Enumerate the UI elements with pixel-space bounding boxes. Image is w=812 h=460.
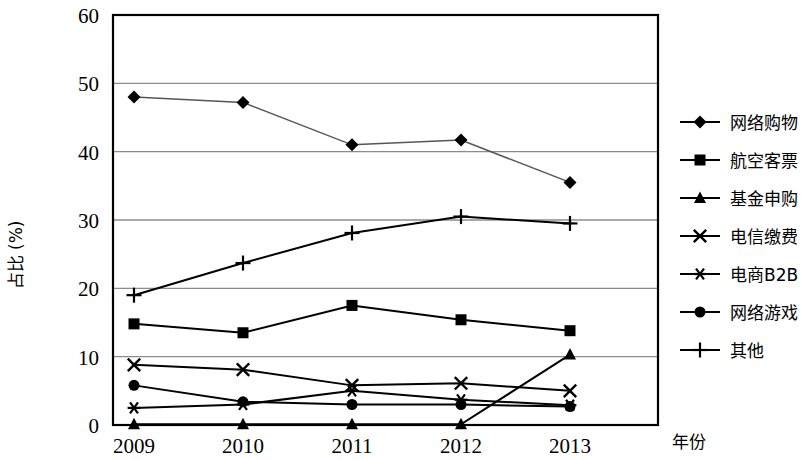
marker-circle	[238, 396, 249, 407]
x-tick-label: 2010	[222, 434, 264, 458]
x-tick-label: 2011	[331, 434, 372, 458]
chart-background	[0, 0, 812, 460]
y-tick-label: 50	[78, 72, 99, 96]
y-tick-label: 60	[78, 4, 99, 28]
legend-label: 网络游戏	[730, 303, 798, 323]
marker-circle	[565, 401, 576, 412]
marker-square	[347, 300, 358, 311]
y-tick-label: 40	[78, 141, 99, 165]
marker-square	[565, 325, 576, 336]
x-axis-title: 年份	[672, 432, 706, 452]
marker-circle	[695, 307, 706, 318]
legend-label: 其他	[730, 341, 764, 361]
x-tick-label: 2012	[440, 434, 482, 458]
marker-circle	[129, 380, 140, 391]
y-tick-label: 10	[78, 346, 99, 370]
chart-canvas: 0102030405060 20092010201120122013 网络购物航…	[0, 0, 812, 460]
y-tick-label: 30	[78, 209, 99, 233]
legend-label: 航空客票	[730, 151, 798, 171]
legend-label: 电商B2B	[730, 265, 798, 285]
x-tick-label: 2013	[549, 434, 591, 458]
marker-square	[695, 155, 706, 166]
y-axis-title: 占比 (%)	[6, 221, 26, 290]
line-chart: 0102030405060 20092010201120122013 网络购物航…	[0, 0, 812, 460]
marker-square	[238, 327, 249, 338]
marker-square	[129, 318, 140, 329]
marker-circle	[347, 399, 358, 410]
x-tick-label: 2009	[113, 434, 155, 458]
y-tick-label: 0	[89, 414, 100, 438]
legend-label: 电信缴费	[730, 227, 798, 247]
y-tick-label: 20	[78, 277, 99, 301]
legend-label: 基金申购	[730, 189, 798, 209]
legend-label: 网络购物	[730, 113, 798, 133]
marker-circle	[456, 399, 467, 410]
marker-square	[456, 314, 467, 325]
